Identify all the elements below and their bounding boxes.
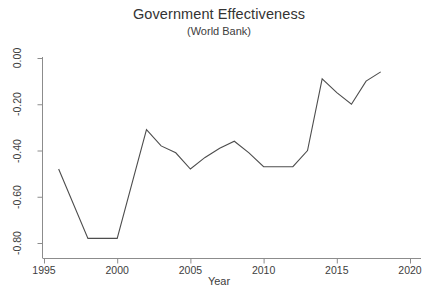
- y-axis-tick-label: -0.20: [10, 87, 24, 121]
- chart-plot-area: [0, 0, 438, 294]
- x-axis-label: Year: [0, 275, 438, 287]
- y-axis-tick-label: -0.40: [10, 134, 24, 168]
- chart-figure: Government Effectiveness (World Bank) 0.…: [0, 0, 438, 294]
- y-axis-tick-label: -0.80: [10, 226, 24, 260]
- x-axis-ticks: [45, 259, 411, 264]
- data-series-line: [59, 72, 381, 239]
- y-axis-tick-label: -0.60: [10, 180, 24, 214]
- axis-lines: [43, 57, 422, 259]
- y-axis-ticks: [38, 59, 43, 244]
- y-axis-tick-label: 0.00: [10, 41, 24, 75]
